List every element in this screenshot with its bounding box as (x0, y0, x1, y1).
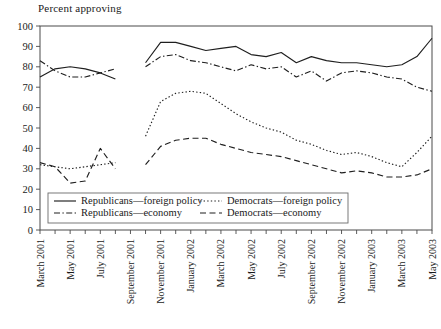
legend-label-2: Republicans—economy (81, 207, 183, 218)
y-tick-label: 30 (23, 163, 34, 174)
plot-area: 0102030405060708090100 March 2001May 200… (0, 0, 441, 329)
y-tick-label: 10 (23, 204, 34, 215)
legend-label-0: Republicans—foreign policy (81, 195, 203, 206)
series-line-1 (146, 55, 432, 92)
x-tick-label: September 2001 (125, 239, 136, 304)
data-series-group (40, 38, 432, 183)
x-axis-ticks (40, 230, 432, 234)
x-tick-label: July 2002 (276, 239, 287, 278)
y-tick-label: 50 (23, 123, 34, 134)
y-tick-label: 0 (28, 225, 33, 236)
x-tick-label: July 2001 (95, 239, 106, 278)
line-chart-svg: 0102030405060708090100 March 2001May 200… (0, 0, 441, 329)
series-line-2 (146, 91, 432, 166)
x-tick-label: November 2002 (336, 239, 347, 304)
x-tick-label: May 2002 (246, 239, 257, 280)
chart-legend: Republicans—foreign policyDemocrats—fore… (48, 193, 348, 223)
x-tick-label: March 2001 (35, 239, 46, 288)
y-tick-label: 20 (23, 184, 34, 195)
x-tick-label: September 2002 (306, 239, 317, 304)
y-tick-label: 90 (23, 41, 34, 52)
x-tick-label: May 2001 (65, 239, 76, 280)
y-axis-ticks: 0102030405060708090100 (17, 21, 40, 236)
y-tick-label: 100 (17, 21, 33, 32)
series-line-3 (146, 138, 432, 177)
x-tick-label: January 2002 (185, 239, 196, 293)
chart-container: Percent approving 0102030405060708090100… (0, 0, 441, 329)
x-tick-label: March 2002 (215, 239, 226, 288)
legend-label-3: Democrats—economy (227, 207, 322, 218)
legend-label-1: Democrats—foreign policy (227, 195, 343, 206)
y-tick-label: 60 (23, 102, 34, 113)
x-axis-labels: March 2001May 2001July 2001September 200… (35, 239, 438, 304)
y-tick-label: 40 (23, 143, 34, 154)
x-tick-label: May 2003 (427, 239, 438, 280)
x-tick-label: January 2003 (366, 239, 377, 293)
series-line-3 (40, 148, 115, 183)
x-tick-label: November 2001 (155, 239, 166, 304)
x-tick-label: March 2003 (396, 239, 407, 288)
series-line-0 (146, 38, 432, 67)
y-tick-label: 70 (23, 82, 34, 93)
y-tick-label: 80 (23, 61, 34, 72)
